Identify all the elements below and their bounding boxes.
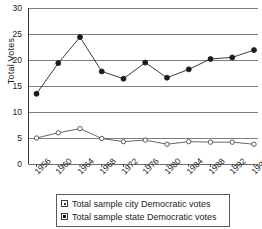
legend-item-city: Total sample city Democratic votes <box>61 197 225 210</box>
data-point <box>143 60 148 65</box>
legend-label-city: Total sample city Democratic votes <box>72 199 211 209</box>
data-point <box>121 76 126 81</box>
legend: Total sample city Democratic votes Total… <box>56 194 230 227</box>
data-point <box>186 67 191 72</box>
data-point <box>230 55 235 60</box>
data-point <box>121 139 125 143</box>
open-square-dot-icon <box>61 200 68 207</box>
data-point <box>78 126 82 130</box>
series-line-state <box>34 35 257 97</box>
plot-area <box>0 0 262 172</box>
data-point <box>230 140 234 144</box>
data-point <box>208 140 212 144</box>
data-point <box>208 56 213 61</box>
data-point <box>56 61 61 66</box>
data-point <box>187 139 191 143</box>
data-point <box>56 131 60 135</box>
data-point <box>99 69 104 74</box>
data-point <box>165 142 169 146</box>
data-point <box>252 48 257 53</box>
series-line-city <box>34 126 256 146</box>
legend-item-state: Total sample state Democratic votes <box>61 210 225 223</box>
data-point <box>252 142 256 146</box>
legend-label-state: Total sample state Democratic votes <box>72 212 217 222</box>
data-point <box>165 75 170 80</box>
data-point <box>34 91 39 96</box>
data-point <box>34 136 38 140</box>
chart-container: Total Votes 051015202530 195619601964196… <box>0 0 262 229</box>
x-axis-tick-labels: 1956196019641968197219761980198419881992… <box>0 164 262 198</box>
data-point <box>78 35 83 40</box>
data-point <box>100 136 104 140</box>
filled-square-icon <box>61 213 68 220</box>
data-point <box>143 138 147 142</box>
